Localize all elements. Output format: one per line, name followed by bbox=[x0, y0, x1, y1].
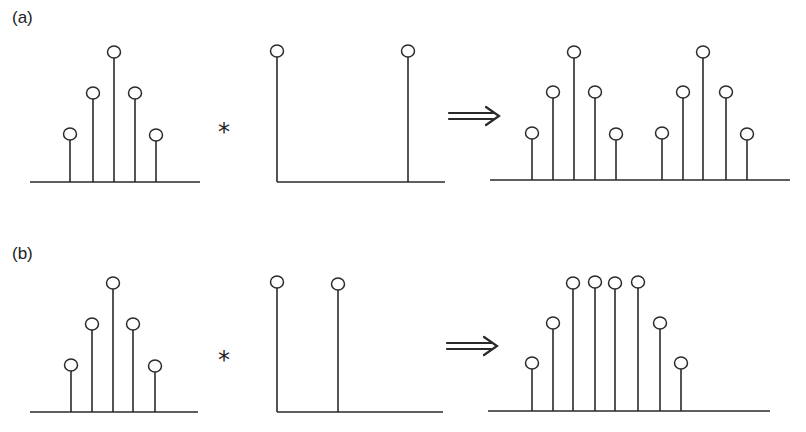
panel-b-input-sequence-stem-marker bbox=[149, 360, 162, 372]
panel-b-result-sequence-stem-marker bbox=[526, 357, 539, 369]
panel-a-result-sequence-stem-marker bbox=[741, 128, 754, 140]
panel-b-implies-arrow-icon bbox=[447, 337, 497, 355]
panel-b-result-sequence-stem-marker bbox=[547, 317, 560, 329]
panel-a-impulse-train-stem-marker bbox=[271, 45, 284, 57]
panel-a-input-sequence-stem-marker bbox=[150, 129, 163, 141]
panel-a-result-sequence-stem-marker bbox=[568, 46, 581, 58]
panel-a-implies-arrow-icon bbox=[449, 107, 499, 125]
panel-b-input-sequence-stem-marker bbox=[86, 318, 99, 330]
panel-b-input-sequence-stem-marker bbox=[65, 359, 78, 371]
panel-a-result-sequence-stem-marker bbox=[656, 127, 669, 139]
panel-b-convolution-operator: * bbox=[218, 346, 230, 374]
panel-a-result-sequence-stem-marker bbox=[589, 86, 602, 98]
panel-a-label: (a) bbox=[12, 8, 33, 28]
panel-a-result-sequence-stem-marker bbox=[677, 86, 690, 98]
panel-b-result-sequence-stem-marker bbox=[589, 276, 602, 288]
panel-b-impulse-train-stem-marker bbox=[332, 278, 345, 290]
panel-b-impulse-train-stem-marker bbox=[271, 276, 284, 288]
panel-b-result-sequence-stem-marker bbox=[632, 276, 645, 288]
panel-b-result-sequence-stem-marker bbox=[567, 277, 580, 289]
panel-a-result-sequence-stem-marker bbox=[526, 127, 539, 139]
panel-a-input-sequence-stem-marker bbox=[87, 87, 100, 99]
panel-b-result-sequence-stem-marker bbox=[654, 317, 667, 329]
panel-a-impulse-train-stem-marker bbox=[402, 45, 415, 57]
panel-b-input-sequence-stem-marker bbox=[107, 277, 120, 289]
diagram-canvas bbox=[0, 0, 806, 432]
panel-a-input-sequence-stem-marker bbox=[108, 46, 121, 58]
panel-a-convolution-operator: * bbox=[218, 118, 230, 146]
panel-a-input-sequence-stem-marker bbox=[64, 128, 77, 140]
panel-b-label: (b) bbox=[12, 244, 33, 264]
panel-a-result-sequence-stem-marker bbox=[720, 86, 733, 98]
panel-a-result-sequence-stem-marker bbox=[610, 128, 623, 140]
panel-a-result-sequence-stem-marker bbox=[697, 46, 710, 58]
panel-b-result-sequence-stem-marker bbox=[675, 357, 688, 369]
panel-a-result-sequence-stem-marker bbox=[547, 86, 560, 98]
panel-b-input-sequence-stem-marker bbox=[127, 318, 140, 330]
panel-b-result-sequence-stem-marker bbox=[609, 277, 622, 289]
panel-a-input-sequence-stem-marker bbox=[129, 87, 142, 99]
